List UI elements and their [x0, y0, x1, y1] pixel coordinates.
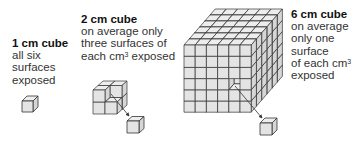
cube-illustrations [0, 0, 357, 144]
cube-6cm-icon [184, 9, 282, 135]
cube-1cm-icon [22, 96, 38, 112]
cube-2cm-icon [93, 81, 144, 133]
